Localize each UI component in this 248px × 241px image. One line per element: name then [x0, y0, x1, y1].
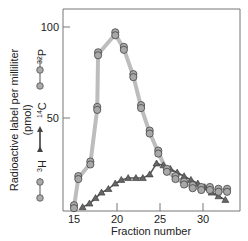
- circle-marker-icon: [137, 104, 144, 111]
- circle-marker-icon: [163, 168, 170, 175]
- circle-marker-icon: [223, 188, 230, 195]
- plot-frame: [63, 9, 240, 211]
- circle-marker-icon: [206, 186, 213, 193]
- circle-marker-icon: [94, 52, 101, 59]
- x-tick-label: 25: [154, 213, 166, 225]
- legend-3h-marker-icon: [37, 179, 44, 186]
- circle-marker-icon: [112, 32, 119, 39]
- x-axis-label: Fraction number: [111, 225, 191, 237]
- circle-marker-icon: [172, 175, 179, 182]
- series-layer: [70, 29, 230, 212]
- circle-marker-icon: [70, 205, 77, 212]
- legend-3h-marker-icon: [37, 195, 44, 202]
- circle-marker-icon: [146, 130, 153, 137]
- chart: 50100 15202530 Fraction number Radioacti…: [0, 0, 248, 241]
- circle-marker-icon: [180, 181, 187, 188]
- legend-32p-marker-icon: [37, 67, 44, 74]
- svg-text:32P: 32P: [36, 49, 48, 64]
- legend-32p-marker-icon: [37, 83, 44, 90]
- y-axis-label-line1: Radioactive label per milliliter: [8, 48, 20, 191]
- circle-marker-icon: [198, 186, 205, 193]
- circle-marker-icon: [189, 185, 196, 192]
- y-axis-label: Radioactive label per milliliter (pmol): [8, 48, 33, 191]
- circle-marker-icon: [75, 175, 82, 182]
- triangle-marker-icon: [153, 160, 160, 166]
- triangle-marker-icon: [112, 180, 119, 186]
- x-tick-label: 30: [197, 213, 209, 225]
- legend-label-32p: 32P: [36, 49, 48, 64]
- circle-marker-icon: [215, 188, 222, 195]
- y-tick-label: 100: [41, 21, 59, 33]
- circle-marker-icon: [120, 46, 127, 53]
- circle-marker-icon: [155, 150, 162, 157]
- y-axis-label-line2: (pmol): [21, 104, 33, 135]
- y-tick-label: 50: [47, 112, 59, 124]
- legend: 32P14C3H: [36, 49, 48, 201]
- series-32p-3h-line: [74, 34, 227, 207]
- svg-text:3H: 3H: [36, 160, 48, 172]
- x-tick-label: 20: [111, 213, 123, 225]
- legend-14c-marker-icon: [37, 146, 43, 152]
- legend-label-3h: 3H: [36, 160, 48, 172]
- circle-marker-icon: [87, 161, 94, 168]
- circle-marker-icon: [130, 74, 137, 81]
- x-tick-label: 15: [68, 213, 80, 225]
- circle-marker-icon: [94, 106, 101, 113]
- legend-14c-marker-icon: [37, 126, 43, 132]
